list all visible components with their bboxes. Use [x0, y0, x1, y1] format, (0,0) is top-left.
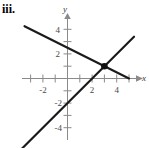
intersection-point: [101, 63, 108, 70]
y-tick-label-neg2: -2: [55, 98, 63, 108]
y-tick-label-neg4: -4: [55, 123, 63, 133]
y-tick-label-4: 4: [56, 25, 61, 35]
y-tick-label-2: 2: [56, 49, 61, 59]
x-tick-label-neg2: -2: [39, 85, 47, 95]
x-axis-label: x: [141, 73, 146, 83]
coordinate-plane: y x -2 2 4 4 2 -2 -4: [0, 0, 149, 148]
x-tick-label-4: 4: [114, 85, 119, 95]
graph-figure: iii.: [0, 0, 149, 148]
x-tick-label-2: 2: [90, 85, 95, 95]
y-axis-label: y: [62, 4, 67, 14]
decreasing-line: [25, 26, 130, 78]
